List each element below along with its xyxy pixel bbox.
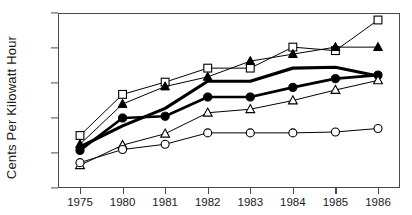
data-point-open-circle: [374, 125, 382, 133]
data-point-open-square: [374, 16, 382, 24]
data-point-open-circle: [246, 129, 254, 137]
data-point-filled-triangle: [118, 99, 127, 107]
data-point-open-circle: [161, 140, 169, 148]
data-point-open-circle: [204, 129, 212, 137]
data-point-filled-circle: [331, 75, 339, 83]
data-point-open-circle: [289, 129, 297, 137]
chart-root: Cents Per Kilowatt Hour 24681012 1975198…: [0, 0, 412, 215]
data-point-open-circle: [331, 128, 339, 136]
data-point-filled-circle: [161, 112, 169, 120]
data-point-filled-circle: [76, 146, 84, 154]
data-point-filled-triangle: [374, 42, 383, 50]
data-point-filled-circle: [204, 93, 212, 101]
data-point-open-square: [119, 90, 127, 98]
data-point-filled-circle: [118, 114, 126, 122]
series-layer: [0, 0, 412, 215]
data-point-filled-circle: [289, 83, 297, 91]
data-point-open-circle: [76, 159, 84, 167]
data-point-filled-circle: [246, 93, 254, 101]
data-point-open-square: [76, 132, 84, 140]
data-point-open-triangle: [161, 129, 170, 137]
data-point-open-circle: [119, 146, 127, 154]
data-point-open-square: [246, 64, 254, 72]
data-point-open-square: [204, 64, 212, 72]
series-open-circle: [76, 125, 382, 167]
